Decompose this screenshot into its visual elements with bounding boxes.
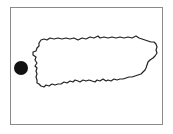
map-canvas — [0, 0, 173, 134]
location-dot-icon[interactable] — [14, 61, 28, 75]
island-outline-puerto-rico — [33, 36, 157, 87]
